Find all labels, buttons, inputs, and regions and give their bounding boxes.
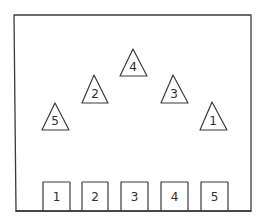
triangle-3: 3 — [161, 75, 188, 103]
box-3: 3 — [121, 182, 148, 211]
triangle-label: 5 — [51, 114, 59, 128]
box-5: 5 — [201, 182, 228, 211]
box-label: 1 — [53, 190, 61, 204]
triangle-label: 4 — [129, 60, 137, 74]
box-label: 4 — [171, 190, 179, 204]
triangle-2: 2 — [82, 75, 108, 103]
box-2: 2 — [82, 182, 108, 211]
diagram-canvas: 5 2 4 3 1 1 2 3 4 5 — [0, 0, 267, 222]
box-1: 1 — [43, 182, 70, 211]
triangle-label: 1 — [209, 114, 217, 128]
triangle-5: 5 — [42, 103, 69, 130]
triangle-label: 2 — [91, 87, 99, 101]
box-label: 3 — [131, 190, 139, 204]
box-label: 2 — [91, 190, 99, 204]
box-label: 5 — [211, 190, 219, 204]
triangle-4: 4 — [120, 49, 147, 76]
triangle-label: 3 — [170, 87, 178, 101]
triangle-1: 1 — [200, 102, 227, 130]
box-4: 4 — [161, 182, 188, 211]
